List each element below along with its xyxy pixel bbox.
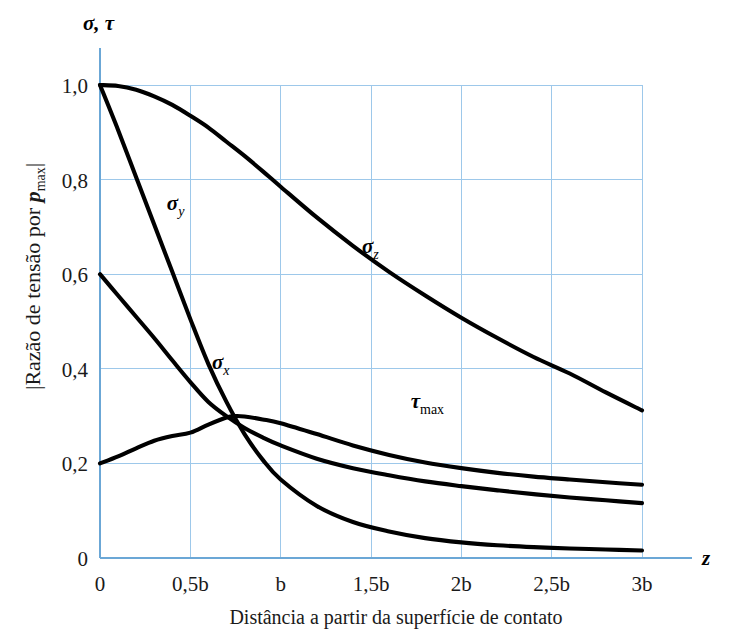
x-tick-0: 0	[95, 572, 106, 596]
y-tick-0.8: 0,8	[62, 169, 88, 193]
x-tick-2.5b: 2,5b	[533, 572, 570, 596]
label-sigma-z: σz	[362, 234, 379, 262]
x-tick-1.5b: 1,5b	[353, 572, 390, 596]
x-tick-labels: 0 0,5b b 1,5b 2b 2,5b 3b	[95, 572, 653, 596]
x-axis-variable-label: z	[701, 546, 711, 570]
label-sigma-y: σy	[167, 191, 185, 219]
x-tick-0.5b: 0,5b	[172, 572, 209, 596]
svg-text:|Razão de tensão por pmax|: |Razão de tensão por pmax|	[20, 163, 48, 390]
y-axis-title: |Razão de tensão por pmax|	[20, 163, 48, 390]
x-tick-3b: 3b	[632, 572, 653, 596]
y-tick-0.4: 0,4	[62, 358, 89, 382]
vertical-gridlines	[190, 85, 642, 558]
x-tick-2b: 2b	[451, 572, 472, 596]
x-tick-b: b	[275, 572, 286, 596]
y-axis-title-subscript: max	[33, 167, 48, 191]
label-sigma-x: σx	[212, 350, 230, 378]
y-tick-1.0: 1,0	[62, 74, 88, 98]
y-tick-0: 0	[78, 547, 89, 571]
y-axis-title-suffix: |	[20, 163, 45, 167]
y-axis-title-symbol: p	[20, 191, 45, 204]
y-axis-title-prefix: |Razão de tensão por	[20, 202, 45, 390]
y-tick-0.2: 0,2	[62, 452, 88, 476]
curve-annotations: σz σy σx τmax	[167, 191, 444, 416]
stress-ratio-chart: 1,0 0,8 0,6 0,4 0,2 0 0 0,5b b 1,5b 2b 2…	[0, 0, 742, 637]
label-tau-max: τmax	[411, 389, 444, 417]
y-tick-0.6: 0,6	[62, 263, 88, 287]
chart-figure: 1,0 0,8 0,6 0,4 0,2 0 0 0,5b b 1,5b 2b 2…	[0, 0, 742, 637]
axis-corner-label: σ, τ	[83, 11, 115, 35]
x-axis-title: Distância a partir da superfície de cont…	[229, 606, 562, 629]
y-tick-labels: 1,0 0,8 0,6 0,4 0,2 0	[62, 74, 89, 571]
